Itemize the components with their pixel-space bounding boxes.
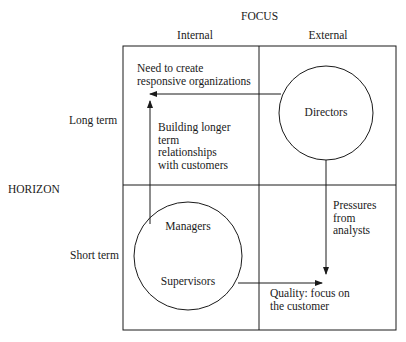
column-label-external: External [293, 29, 363, 42]
managers-label: Managers [152, 220, 224, 233]
row-label-long-term: Long term [69, 114, 117, 127]
row-label-short-term: Short term [70, 249, 119, 262]
column-label-internal: Internal [160, 29, 230, 42]
annotation-pressures-analysts: Pressures from analysts [333, 199, 376, 237]
annotation-need-responsive: Need to create responsive organizations [137, 62, 251, 87]
annotation-building-relationships: Building longer term relationships with … [158, 121, 231, 171]
supervisors-label: Supervisors [152, 275, 224, 288]
axis-title-focus: FOCUS [241, 10, 278, 23]
directors-label: Directors [290, 106, 362, 119]
axis-title-horizon: HORIZON [8, 183, 60, 196]
annotation-quality-focus: Quality: focus on the customer [270, 287, 350, 312]
